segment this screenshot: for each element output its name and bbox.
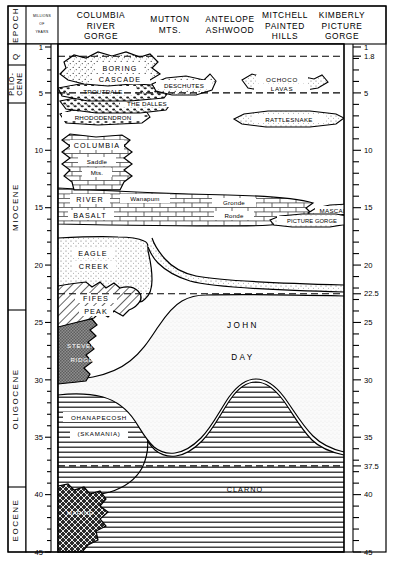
epoch-label-pliocene-l2: CENE	[15, 72, 24, 96]
left-axis-label-30: 30	[35, 376, 43, 385]
header-row: EPOCH MILLIONS OF YEARS COLUMBIA RIVER G…	[8, 6, 386, 44]
unit-label-fifes: FIFES	[83, 294, 109, 303]
right-axis-label-37-5: 37.5	[364, 462, 379, 471]
unit-label-river: RIVER	[76, 195, 103, 204]
scale-label-line-1: MILLIONS	[33, 14, 52, 18]
chart-canvas: EPOCH MILLIONS OF YEARS COLUMBIA RIVER G…	[0, 0, 394, 566]
header-col-mitchell-painted-hills-l1: MITCHELL	[262, 10, 308, 20]
header-col-kimberly-picture-gorge-l2: PICTURE	[322, 21, 363, 31]
unit-label-wanapum: Wanapum	[130, 195, 159, 202]
stratigraphic-chart: EPOCH MILLIONS OF YEARS COLUMBIA RIVER G…	[0, 0, 394, 566]
left-axis-label-1: 1	[39, 43, 43, 52]
unit-label-ridge: RIDGE	[70, 356, 93, 363]
unit-label-mts: Mts.	[91, 169, 104, 176]
epoch-label-oligocene: OLIGOCENE	[11, 368, 20, 429]
right-axis-label-15: 15	[364, 203, 372, 212]
left-axis-label-15: 15	[35, 203, 43, 212]
header-col-columbia-river-gorge-l2: RIVER	[87, 21, 116, 31]
right-axis-label-5: 5	[364, 89, 368, 98]
header-col-mutton-mts-l1: MUTTON	[150, 14, 189, 24]
header-col-mitchell-painted-hills-l2: PAINTED	[265, 21, 305, 31]
unit-label-columbia: COLUMBIA	[74, 141, 120, 150]
right-axis-label-30: 30	[364, 376, 372, 385]
unit-label-stevens: STEVENS	[67, 342, 101, 349]
unit-label-peak: PEAK	[84, 307, 108, 316]
left-axis: 151015202530354045	[26, 43, 58, 557]
right-axis-label-40: 40	[364, 490, 372, 499]
unit-label-skamania: (SKAMANIA)	[77, 430, 120, 437]
unit-picture-gorge: PICTURE GORGE	[270, 214, 352, 227]
unit-label-picture-gorge: PICTURE GORGE	[287, 218, 337, 224]
header-col-columbia-river-gorge-l3: GORGE	[84, 31, 118, 41]
left-axis-label-10: 10	[35, 146, 43, 155]
epoch-label-quaternary: Q	[11, 54, 20, 60]
unit-label-cascade: CASCADE	[99, 75, 141, 84]
unit-rattlesnake: RATTLESNAKE	[234, 111, 344, 127]
unit-label-lavas: LAVAS	[271, 85, 294, 92]
right-axis-label-25: 25	[364, 318, 372, 327]
left-axis-label-5: 5	[39, 89, 43, 98]
header-col-kimberly-picture-gorge-l1: KIMBERLY	[319, 10, 366, 20]
epoch-column: Q PLIO- CENE MIOCENE OLIGOCENE EOCENE	[7, 44, 26, 552]
scale-label-line-3: YEARS	[36, 30, 49, 34]
unit-label-basalt: BASALT	[73, 211, 107, 220]
epoch-label-miocene: MIOCENE	[11, 183, 20, 231]
unit-label-eagle: EAGLE	[78, 249, 107, 258]
unit-label-grande-ronde-l1: Gronde	[223, 199, 245, 206]
unit-label-marine: MARINE	[67, 509, 93, 516]
right-axis-label-22-5: 22.5	[364, 289, 379, 298]
unit-label-boring: BORING	[103, 64, 138, 73]
right-axis-label-1-8: 1.8	[364, 52, 375, 61]
scale-label-line-2: OF	[39, 22, 44, 26]
unit-label-rhododendron: RHODODENDRON	[75, 114, 132, 121]
unit-boring-cascade: BORING CASCADE	[60, 52, 160, 86]
unit-label-john: JOHN	[227, 321, 259, 330]
header-col-antelope-ashwood-l2: ASHWOOD	[206, 25, 254, 35]
left-axis-label-20: 20	[35, 261, 43, 270]
unit-label-creek: CREEK	[79, 262, 109, 271]
unit-label-ochoco: OCHOCO	[266, 76, 298, 83]
unit-label-clarno: CLARNO	[227, 485, 264, 494]
header-col-columbia-river-gorge-l1: COLUMBIA	[77, 10, 126, 20]
right-axis-label-1: 1	[364, 43, 368, 52]
unit-saddle-mts: COLUMBIA Saddle Mts.	[62, 134, 132, 190]
unit-label-grande-ronde-l2: Ronde	[224, 212, 244, 219]
right-axis-label-20: 20	[364, 261, 372, 270]
right-axis-label-35: 35	[364, 433, 372, 442]
unit-label-ohanapecosh: OHANAPECOSH	[71, 414, 127, 421]
epoch-label-eocene: EOCENE	[11, 499, 20, 542]
left-axis-label-40: 40	[35, 490, 43, 499]
header-col-mutton-mts-l2: MTS.	[159, 25, 181, 35]
unit-label-rattlesnake: RATTLESNAKE	[265, 116, 313, 123]
header-col-kimberly-picture-gorge-l3: GORGE	[325, 31, 359, 41]
unit-label-deschutes: DESCHUTES	[164, 82, 204, 89]
header-col-antelope-ashwood-l1: ANTELOPE	[205, 14, 254, 24]
header-epoch-label: EPOCH	[11, 7, 20, 43]
unit-label-saddle: Saddle	[87, 158, 108, 165]
header-col-mitchell-painted-hills-l3: HILLS	[272, 31, 298, 41]
left-axis-label-25: 25	[35, 318, 43, 327]
unit-label-day: DAY	[231, 353, 254, 362]
right-axis-label-10: 10	[364, 146, 372, 155]
left-axis-label-35: 35	[35, 433, 43, 442]
